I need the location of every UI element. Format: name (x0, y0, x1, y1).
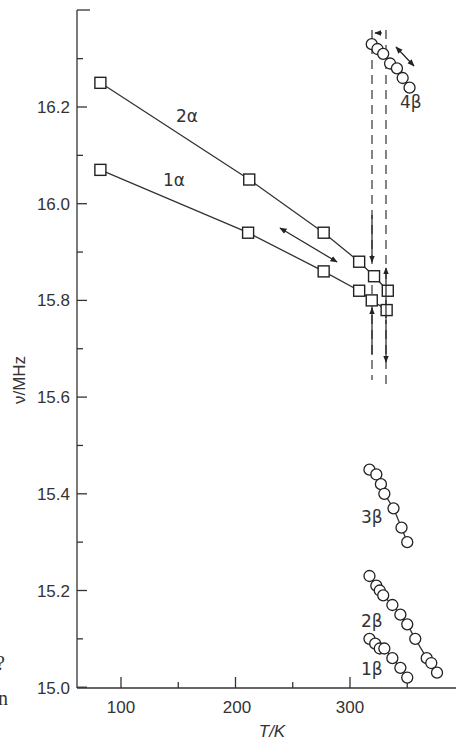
square-marker (318, 266, 329, 277)
series-line (100, 170, 386, 310)
circle-marker (387, 600, 398, 611)
chart: 15.0 15.2 15.4 15.6 15.8 16.0 16.2 100 2… (0, 0, 456, 741)
square-marker (95, 77, 106, 88)
dashed-transition-lines (372, 30, 386, 390)
square-marker (243, 227, 254, 238)
circle-marker (402, 672, 413, 683)
series-label-1b: 1β (361, 659, 383, 679)
circle-marker (378, 590, 389, 601)
x-tick-label: 200 (223, 698, 251, 717)
square-marker (244, 174, 255, 185)
series-layer (95, 39, 443, 683)
series-3β (364, 464, 413, 548)
cropped-text-fragment: n (0, 687, 8, 709)
circle-marker (379, 643, 390, 654)
series-1α (95, 164, 392, 315)
circle-marker (387, 653, 398, 664)
y-tick-label: 16.0 (37, 195, 70, 214)
circle-marker (432, 667, 443, 678)
circle-marker (396, 522, 407, 533)
series-label-4b: 4β (400, 92, 422, 112)
circle-marker (395, 662, 406, 673)
y-tick-label: 15.8 (37, 291, 70, 310)
square-marker (369, 271, 380, 282)
y-tick-labels: 15.0 15.2 15.4 15.6 15.8 16.0 16.2 (37, 98, 70, 698)
square-marker (382, 285, 393, 296)
circle-marker (402, 537, 413, 548)
series-label-1a: 1α (163, 170, 185, 190)
circle-marker (378, 48, 389, 59)
x-tick-labels: 100 200 300 (107, 698, 364, 717)
square-marker (354, 256, 365, 267)
series-4β (366, 39, 415, 94)
x-axis-title: T/K (259, 722, 286, 741)
y-tick-label: 15.2 (37, 582, 70, 601)
y-tick-label: 16.2 (37, 98, 70, 117)
y-ticks (77, 59, 87, 688)
square-marker (354, 285, 365, 296)
cropped-text-fragment: ? (0, 652, 5, 674)
circle-marker (379, 488, 390, 499)
arrows (280, 33, 414, 362)
series-line (100, 83, 387, 291)
y-tick-label: 15.6 (37, 388, 70, 407)
y-axis-title: ν/MHz (10, 356, 29, 404)
x-tick-label: 300 (336, 698, 364, 717)
circle-marker (402, 619, 413, 630)
square-marker (381, 305, 392, 316)
series-label-2a: 2α (176, 106, 198, 126)
square-marker (366, 295, 377, 306)
circle-marker (397, 72, 408, 83)
circle-marker (364, 570, 375, 581)
square-marker (95, 164, 106, 175)
y-tick-label: 15.0 (37, 679, 70, 698)
square-marker (318, 227, 329, 238)
x-tick-label: 100 (107, 698, 135, 717)
y-tick-label: 15.4 (37, 485, 70, 504)
circle-marker (388, 503, 399, 514)
circle-marker (395, 609, 406, 620)
series-label-2b: 2β (361, 611, 383, 631)
circle-marker (410, 633, 421, 644)
series-label-3b: 3β (361, 507, 383, 527)
